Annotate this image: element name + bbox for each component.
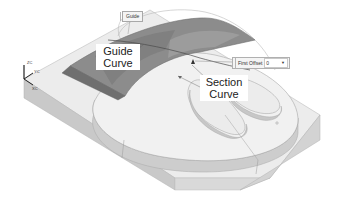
first-offset-value-field[interactable]: 0 ▼ [264,58,288,68]
graphics-window[interactable]: ZC YC XC Guide First Offset 0 ▼ Guide Cu… [0,0,352,200]
drag-grip-icon[interactable] [120,12,123,21]
section-curve-callout: Section Curve [200,75,248,101]
block-front-face-lower [175,178,270,190]
guide-callout-line1: Guide [98,45,138,57]
first-offset-value: 0 [266,60,269,66]
guide-callout-line2: Curve [98,57,138,69]
chevron-down-icon[interactable]: ▼ [281,60,285,65]
first-offset-label: First Offset [238,60,262,66]
model-scene[interactable] [0,0,352,200]
section-callout-line2: Curve [202,88,246,100]
guide-screen-tag[interactable]: Guide [122,11,143,22]
axis-label-yc: YC [34,69,40,74]
first-offset-input-box[interactable]: First Offset 0 ▼ [232,57,290,69]
guide-tag-label: Guide [126,13,139,19]
axis-label-xc: XC [32,86,38,91]
guide-curve-callout: Guide Curve [96,44,140,70]
section-callout-line1: Section [202,76,246,88]
axis-label-zc: ZC [27,60,32,65]
drag-grip-icon[interactable] [233,58,236,68]
